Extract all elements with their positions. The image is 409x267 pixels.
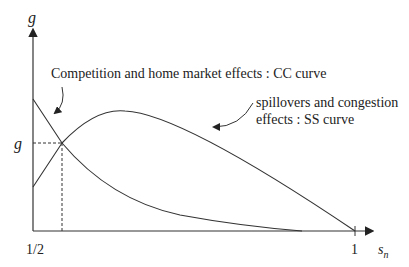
x-tick-half: 1/2 — [26, 243, 44, 257]
ss-annotation-line2: effects : SS curve — [256, 113, 354, 127]
y-axis-label: g — [28, 10, 36, 26]
ss-annotation-line1: spillovers and congestion — [256, 96, 398, 110]
ss-annotation-arrow — [214, 103, 253, 127]
x-axis-label: sn — [378, 243, 388, 260]
cc-annotation-arrow — [55, 87, 63, 113]
x-tick-one: 1 — [351, 243, 358, 257]
ss-curve — [33, 111, 355, 231]
diagram-canvas — [0, 0, 409, 267]
cc-annotation: Competition and home market effects : CC… — [51, 67, 326, 81]
equilibrium-g-label: g — [14, 136, 22, 152]
